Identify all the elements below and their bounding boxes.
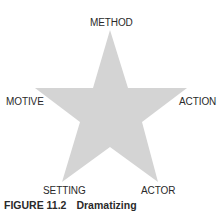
label-actor: ACTOR — [141, 185, 175, 197]
label-action: ACTION — [179, 96, 216, 108]
figure-number: FIGURE 11.2 — [4, 199, 66, 211]
label-method: METHOD — [90, 17, 133, 29]
star-shape — [0, 0, 218, 216]
figure-caption: FIGURE 11.2Dramatizing — [4, 199, 137, 211]
label-setting: SETTING — [43, 185, 86, 197]
label-motive: MOTIVE — [6, 96, 44, 108]
figure-title: Dramatizing — [76, 199, 136, 211]
